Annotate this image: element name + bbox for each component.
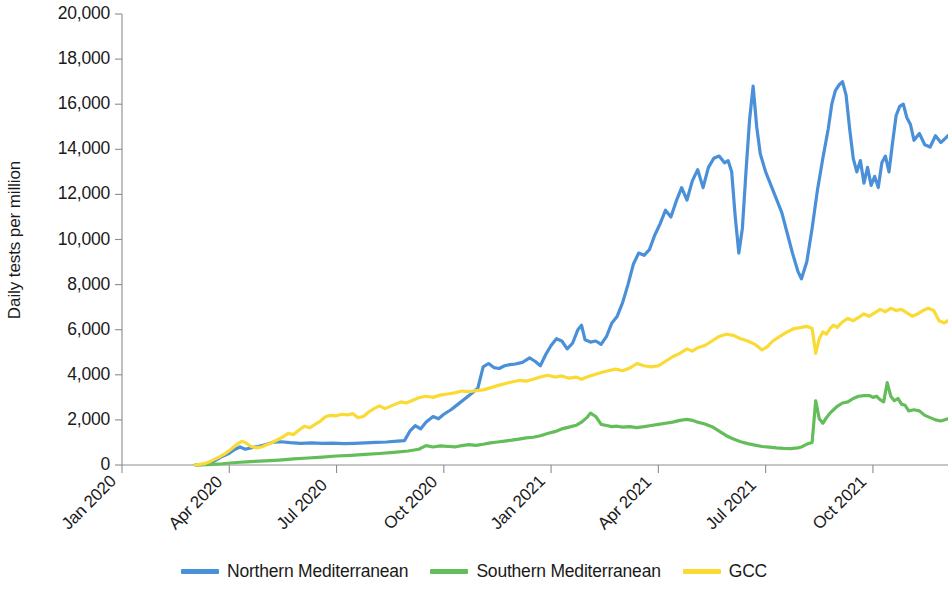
y-axis-tick-label: 12,000 [58,183,110,204]
y-axis-tick-label: 10,000 [58,229,110,250]
y-axis-tick-label: 20,000 [58,3,110,24]
legend-swatch-icon [181,569,219,574]
y-axis-tick-label: 18,000 [58,48,110,69]
y-axis-tick-label: 14,000 [58,138,110,159]
y-axis-tick-label: 8,000 [67,274,110,295]
chart-legend: Northern MediterraneanSouthern Mediterra… [0,561,948,582]
y-axis-tick-label: 2,000 [67,409,110,430]
legend-swatch-icon [430,569,468,574]
axis-spine [122,14,948,465]
legend-item[interactable]: Northern Mediterranean [181,561,408,582]
legend-label: Southern Mediterranean [476,561,660,582]
chart-container: Daily tests per million 02,0004,0006,000… [0,0,948,590]
legend-label: GCC [729,561,767,582]
y-axis-tick-label: 16,000 [58,93,110,114]
legend-label: Northern Mediterranean [227,561,408,582]
legend-item[interactable]: GCC [683,561,767,582]
y-axis-tick-label: 6,000 [67,319,110,340]
y-axis-tick-label: 4,000 [67,364,110,385]
legend-swatch-icon [683,569,721,574]
chart-plot-area [0,0,948,590]
series-line-2 [195,383,948,465]
legend-item[interactable]: Southern Mediterranean [430,561,660,582]
